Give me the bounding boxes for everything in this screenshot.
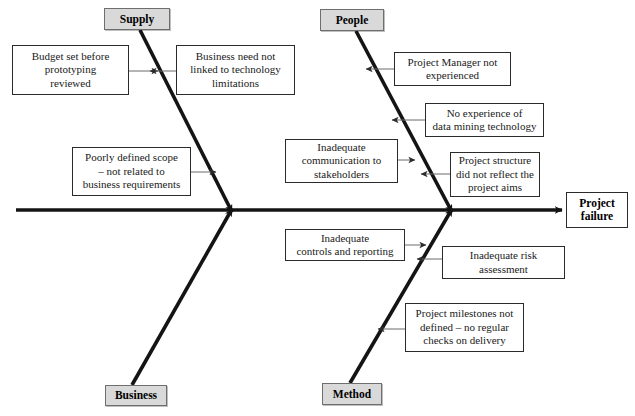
- category-label-people[interactable]: People: [320, 9, 384, 31]
- cause-box-budget-set-before-prototyping[interactable]: Budget set before prototyping reviewed: [12, 45, 129, 95]
- cause-box-project-milestones-not-defined[interactable]: Project milestones not defined – no regu…: [405, 303, 524, 352]
- category-label-business[interactable]: Business: [105, 385, 167, 406]
- cause-box-poorly-defined-scope[interactable]: Poorly defined scope – not related to bu…: [72, 147, 191, 196]
- cause-box-project-structure-not-reflect-aims[interactable]: Project structure did not reflect the pr…: [450, 152, 540, 197]
- connectors-group: [129, 69, 450, 329]
- cause-box-no-experience-data-mining[interactable]: No experience of data mining technology: [425, 103, 544, 137]
- fishbone-diagram-canvas: Budget set before prototyping reviewedBu…: [0, 0, 635, 416]
- effect-box-project-failure[interactable]: Project failure: [566, 192, 628, 228]
- cause-box-project-manager-not-experienced[interactable]: Project Manager not experienced: [394, 52, 511, 86]
- cause-box-business-need-not-linked[interactable]: Business need not linked to technology l…: [176, 45, 295, 95]
- category-label-method[interactable]: Method: [322, 383, 382, 405]
- cause-box-inadequate-risk-assessment[interactable]: Inadequate risk assessment: [442, 246, 565, 279]
- cause-box-inadequate-controls-reporting[interactable]: Inadequate controls and reporting: [285, 229, 405, 261]
- cause-box-inadequate-communication[interactable]: Inadequate communication to stakeholders: [285, 139, 398, 183]
- category-label-supply[interactable]: Supply: [104, 8, 170, 30]
- bone-business: [132, 209, 232, 385]
